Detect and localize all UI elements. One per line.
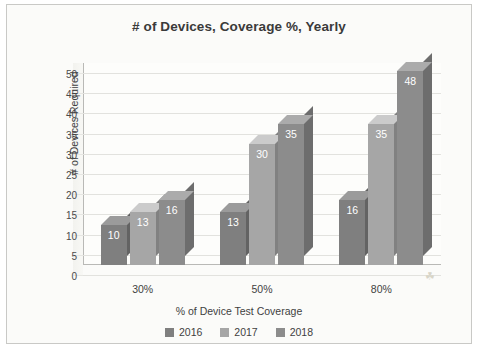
- legend-label: 2016: [179, 326, 202, 338]
- chart-title: # of Devices, Coverage %, Yearly: [7, 19, 471, 34]
- bar[interactable]: 16: [159, 200, 185, 265]
- chart-container: # of Devices, Coverage %, Yearly 0510152…: [6, 4, 472, 344]
- gridline: 45: [83, 93, 441, 94]
- bar[interactable]: 48: [397, 71, 423, 265]
- x-axis-tick: 30%: [103, 283, 183, 295]
- legend-item[interactable]: 2018: [276, 326, 313, 338]
- x-axis-tick: 80%: [341, 283, 421, 295]
- y-axis-title: # of Devices Required: [68, 48, 80, 198]
- bar-value-label: 16: [159, 204, 185, 216]
- bar[interactable]: 13: [220, 212, 246, 265]
- bar-value-label: 16: [339, 204, 365, 216]
- chart-legend: 201620172018: [7, 326, 471, 338]
- bar-value-label: 48: [397, 75, 423, 87]
- y-axis-tick: 10: [66, 230, 77, 241]
- bar-front-face: [368, 124, 394, 265]
- bar-value-label: 30: [249, 148, 275, 160]
- bar-front-face: [397, 71, 423, 265]
- plot-area: 05101520253035404550 101316133035163548: [73, 63, 441, 275]
- bar[interactable]: 10: [101, 225, 127, 265]
- x-axis-title: % of Device Test Coverage: [7, 305, 471, 317]
- bar[interactable]: 35: [278, 124, 304, 265]
- bar-value-label: 13: [130, 216, 156, 228]
- bar-value-label: 10: [101, 229, 127, 241]
- gridline: 50: [83, 73, 441, 74]
- y-axis-tick: 15: [66, 210, 77, 221]
- legend-swatch: [165, 328, 174, 337]
- gridline: 0: [83, 275, 441, 276]
- bar-front-face: [249, 144, 275, 265]
- decorative-mark: ☘: [425, 270, 435, 283]
- legend-item[interactable]: 2017: [220, 326, 257, 338]
- legend-swatch: [220, 328, 229, 337]
- x-axis-tick: 50%: [222, 283, 302, 295]
- bar-side-face: [423, 53, 432, 256]
- bar-value-label: 35: [368, 128, 394, 140]
- y-axis-tick: 5: [71, 250, 77, 261]
- bar-front-face: [278, 124, 304, 265]
- y-axis-tick: 0: [71, 271, 77, 282]
- legend-swatch: [276, 328, 285, 337]
- bar-value-label: 35: [278, 128, 304, 140]
- bar-value-label: 13: [220, 216, 246, 228]
- bar[interactable]: 16: [339, 200, 365, 265]
- legend-item[interactable]: 2016: [165, 326, 202, 338]
- bar-side-face: [304, 106, 313, 256]
- legend-label: 2018: [290, 326, 313, 338]
- legend-label: 2017: [234, 326, 257, 338]
- bar[interactable]: 30: [249, 144, 275, 265]
- bar[interactable]: 35: [368, 124, 394, 265]
- bar[interactable]: 13: [130, 212, 156, 265]
